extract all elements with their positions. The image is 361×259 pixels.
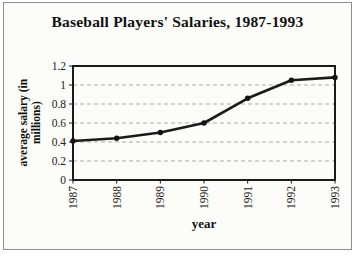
y-tick-label: 0.6: [52, 117, 67, 129]
y-tick-label: 0.8: [52, 98, 67, 110]
y-tick-label: 0.2: [52, 155, 67, 167]
x-tick-label: 1993: [329, 186, 341, 209]
y-tick-label: 0.4: [52, 136, 67, 148]
y-axis-title-line2: millions): [30, 101, 42, 144]
y-axis-title-line1: average salary (in: [17, 79, 29, 167]
data-point: [245, 96, 250, 101]
x-tick-label: 1992: [285, 186, 297, 209]
x-tick-label: 1988: [111, 186, 123, 209]
data-point: [70, 138, 75, 143]
x-tick-label: 1991: [242, 186, 254, 209]
y-tick-label: 1: [60, 79, 66, 91]
x-tick-label: 1990: [198, 186, 210, 209]
data-point: [201, 120, 206, 125]
x-tick-label: 1989: [154, 186, 166, 209]
data-point: [332, 75, 337, 80]
data-point: [114, 136, 119, 141]
y-tick-label: 0: [60, 174, 66, 186]
y-axis-title: average salary (in millions): [17, 43, 42, 203]
data-point: [289, 78, 294, 83]
salary-line-series: [73, 77, 335, 141]
chart-figure: Baseball Players' Salaries, 1987-1993 00…: [0, 0, 361, 259]
data-point: [158, 130, 163, 135]
x-axis-title: year: [73, 216, 335, 232]
x-tick-label: 1987: [67, 186, 79, 209]
y-tick-label: 1.2: [52, 60, 67, 72]
